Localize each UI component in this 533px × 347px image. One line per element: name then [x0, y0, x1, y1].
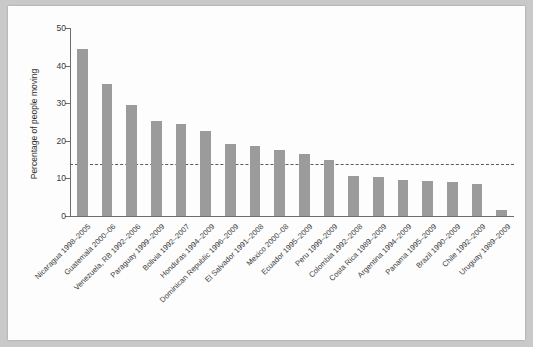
bar: [324, 160, 334, 216]
bar: [398, 180, 408, 216]
y-axis-title: Percentage of people moving: [29, 69, 39, 180]
bar: [176, 124, 186, 216]
bar: [274, 150, 284, 216]
y-axis-tick-label: 10: [57, 173, 66, 183]
bar: [77, 49, 87, 216]
bar: [472, 184, 482, 216]
figure-page: Percentage of people moving 01020304050 …: [8, 6, 525, 340]
y-axis-tick-label: 20: [57, 136, 66, 146]
y-axis-tick-label: 50: [57, 23, 66, 33]
plot-area: 01020304050: [70, 28, 514, 216]
bar: [496, 210, 506, 216]
bar: [447, 182, 457, 216]
bar: [373, 177, 383, 216]
y-axis-tick-label: 0: [61, 211, 66, 221]
bar: [299, 154, 309, 216]
y-axis-tick-label: 30: [57, 98, 66, 108]
y-axis-tick-label: 40: [57, 61, 66, 71]
bar: [422, 181, 432, 216]
bar: [250, 146, 260, 216]
y-axis-line: [70, 28, 71, 216]
x-axis-line: [70, 216, 514, 217]
bar: [102, 84, 112, 216]
x-axis-tick-labels: Nicaragua 1998–2005Guatemala 2000–06Vene…: [70, 222, 514, 332]
bar: [200, 131, 210, 216]
bar: [225, 144, 235, 216]
bar: [151, 121, 161, 216]
bar: [348, 176, 358, 216]
bar: [126, 105, 136, 216]
